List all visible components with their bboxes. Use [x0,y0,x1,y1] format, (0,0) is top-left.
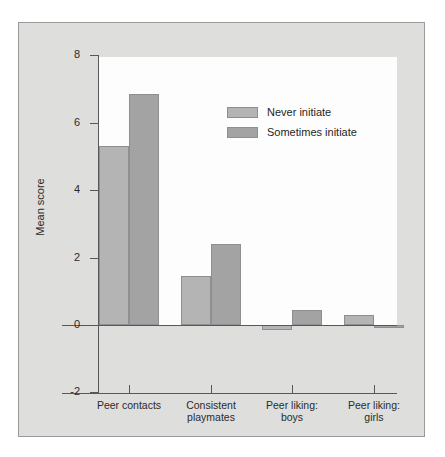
x-axis-zero-line [62,325,397,326]
x-axis-category-line [62,393,397,394]
legend-swatch-never-initiate [227,107,258,118]
bar-s1-c0 [129,94,159,325]
chart-legend: Never initiate Sometimes initiate [227,104,357,144]
bar-s1-c1 [211,244,241,325]
y-axis-line [98,56,99,393]
legend-item-sometimes-initiate: Sometimes initiate [227,124,357,141]
bar-s1-c2 [292,310,322,325]
x-tick-0 [129,385,130,394]
y-tick-1 [90,123,99,124]
legend-label-sometimes-initiate: Sometimes initiate [267,127,357,138]
bar-s0-c1 [181,276,211,325]
x-tick-1 [211,385,212,394]
y-axis-label: Mean score [34,157,46,257]
bar-s0-c3 [344,315,374,325]
y-tick-label-5: -2 [40,386,80,397]
x-tick-label-3: Peer liking:girls [326,399,422,423]
y-tick-label-1: 6 [40,117,80,128]
legend-label-never-initiate: Never initiate [267,107,331,118]
y-tick-label-2: 4 [40,184,80,195]
y-tick-0 [90,55,99,56]
bar-s0-c0 [99,146,129,325]
y-tick-label-3: 2 [40,252,80,263]
y-tick-4 [90,325,99,326]
x-tick-3 [374,385,375,394]
y-tick-label-4: 0 [40,319,80,330]
legend-item-never-initiate: Never initiate [227,104,357,121]
y-tick-5 [90,392,99,393]
legend-swatch-sometimes-initiate [227,127,258,138]
y-tick-3 [90,258,99,259]
y-tick-label-0: 8 [40,49,80,60]
y-tick-2 [90,190,99,191]
chart-figure: 86420-2 Peer contactsConsistentplaymates… [18,22,425,437]
x-tick-2 [292,385,293,394]
